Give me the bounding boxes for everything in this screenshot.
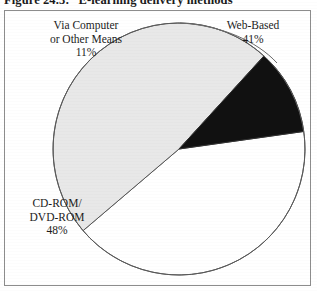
pie-label-cd-rom-value: 48% (9, 224, 105, 238)
pie-label-cd-rom-text1: CD-ROM/ (9, 197, 105, 211)
figure-caption-title: E-learning delivery methods (79, 0, 233, 7)
pie-label-other-means-text2: or Other Means (27, 33, 145, 47)
pie-label-web-based-value: 41% (201, 33, 305, 47)
figure-caption-number: Figure 24.3: (4, 0, 70, 7)
pie-label-web-based-text: Web-Based (201, 19, 305, 33)
pie-label-cd-rom-text2: DVD-ROM (9, 211, 105, 225)
pie-label-web-based: Web-Based 41% (201, 19, 305, 46)
pie-label-other-means: Via Computer or Other Means 11% (27, 19, 145, 60)
pie-label-other-means-value: 11% (27, 46, 145, 60)
pie-label-cd-rom: CD-ROM/ DVD-ROM 48% (9, 197, 105, 238)
figure-caption: Figure 24.3:E-learning delivery methods (4, 0, 304, 9)
figure-frame: Web-Based 41% Via Computer or Other Mean… (4, 10, 311, 286)
pie-label-other-means-text1: Via Computer (27, 19, 145, 33)
